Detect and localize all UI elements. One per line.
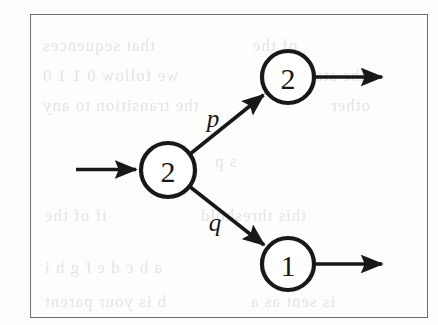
edge-label-q: q bbox=[209, 209, 222, 236]
node-down-label: 1 bbox=[281, 249, 296, 282]
edge-start-to-down bbox=[189, 186, 264, 245]
node-up-label: 2 bbox=[281, 62, 296, 95]
figure-page: that sequenceswe follow 0 1 1 0the trans… bbox=[0, 0, 438, 325]
node-start-label: 2 bbox=[161, 155, 176, 188]
edge-label-p: p bbox=[205, 105, 220, 132]
state-diagram: 2 2 1 p q bbox=[0, 0, 438, 325]
edge-start-to-up bbox=[190, 95, 264, 155]
